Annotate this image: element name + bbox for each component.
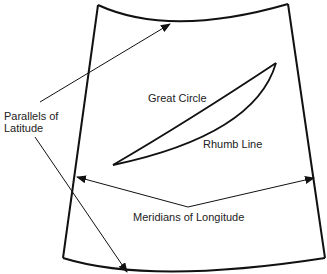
chart-projection-diagram [0, 0, 327, 274]
rhumb-line-label: Rhumb Line [203, 138, 262, 150]
top-parallel-curve [98, 4, 288, 21]
parallels-label-line2: Latitude [4, 122, 58, 134]
left-meridian-line [63, 5, 98, 258]
bottom-parallel-curve [63, 258, 325, 272]
parallels-label-line1: Parallels of [4, 110, 58, 122]
great-circle-label: Great Circle [148, 92, 207, 104]
parallels-arrow-top [40, 24, 170, 102]
parallels-arrow-bottom [35, 137, 127, 272]
meridians-arrow-left [77, 177, 188, 207]
right-meridian-line [288, 4, 325, 258]
meridians-arrow-right [188, 178, 314, 207]
meridians-of-longitude-label: Meridians of Longitude [133, 211, 244, 223]
parallels-of-latitude-label: Parallels of Latitude [4, 110, 58, 134]
